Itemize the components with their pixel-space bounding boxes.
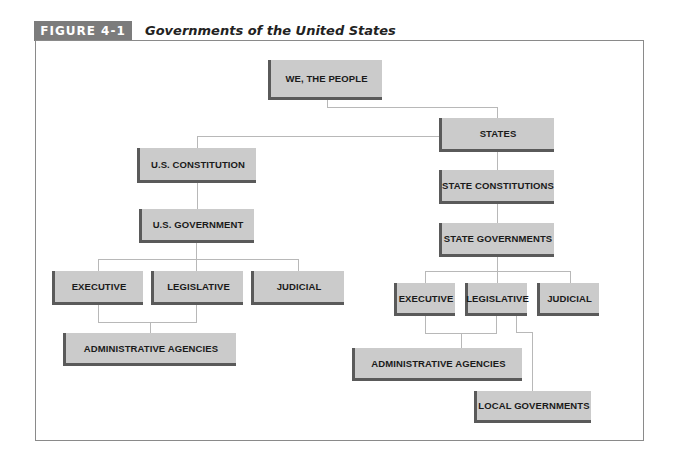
node-we-the-people: WE, THE PEOPLE [268,60,382,100]
node-state-executive: EXECUTIVE [394,283,455,316]
connector [497,203,498,223]
node-us-constitution: U.S. CONSTITUTION [137,148,256,183]
node-states: STATES [439,118,554,152]
connector [327,107,498,108]
connector [298,259,299,271]
connector [98,259,99,271]
connector [532,332,533,391]
node-us-legislative: LEGISLATIVE [151,271,243,305]
connector [425,315,426,333]
connector [425,271,571,272]
node-us-government: U.S. GOVERNMENT [139,209,254,243]
connector [98,322,197,323]
connector [196,304,197,322]
connector [98,259,299,260]
connector [497,256,498,283]
node-state-legislative: LEGISLATIVE [465,283,527,316]
node-state-judicial: JUDICIAL [537,283,599,316]
figure-label: FIGURE 4-1 [34,21,132,41]
connector [570,271,571,283]
connector [496,315,497,333]
node-state-administrative-agencies: ADMINISTRATIVE AGENCIES [352,348,522,381]
node-us-judicial: JUDICIAL [251,271,344,305]
node-us-executive: EXECUTIVE [52,271,143,305]
node-us-administrative-agencies: ADMINISTRATIVE AGENCIES [63,333,236,366]
connector [516,332,533,333]
connector [497,107,498,118]
connector [497,151,498,170]
connector [461,333,462,348]
connector [150,322,151,333]
connector [425,271,426,283]
connector [98,304,99,322]
node-local-governments: LOCAL GOVERNMENTS [474,391,591,423]
connector [196,242,197,271]
node-state-governments: STATE GOVERNMENTS [439,223,554,257]
connector [197,136,198,148]
node-state-constitutions: STATE CONSTITUTIONS [439,170,554,204]
connector [197,136,439,137]
figure-title: Governments of the United States [145,21,396,41]
connector [516,315,517,332]
connector [197,182,198,209]
